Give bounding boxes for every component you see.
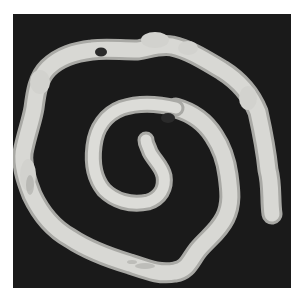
photograph — [13, 14, 291, 288]
dark-spot-outer — [95, 48, 107, 57]
dark-spot-inner — [161, 113, 175, 123]
spiral-specimen — [13, 14, 291, 288]
